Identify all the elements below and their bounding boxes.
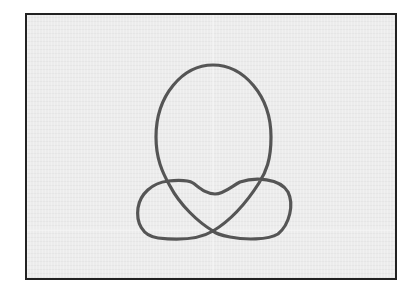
- knot-curve: [138, 65, 291, 239]
- curve-diagram: [0, 0, 407, 289]
- figure-canvas: [0, 0, 407, 289]
